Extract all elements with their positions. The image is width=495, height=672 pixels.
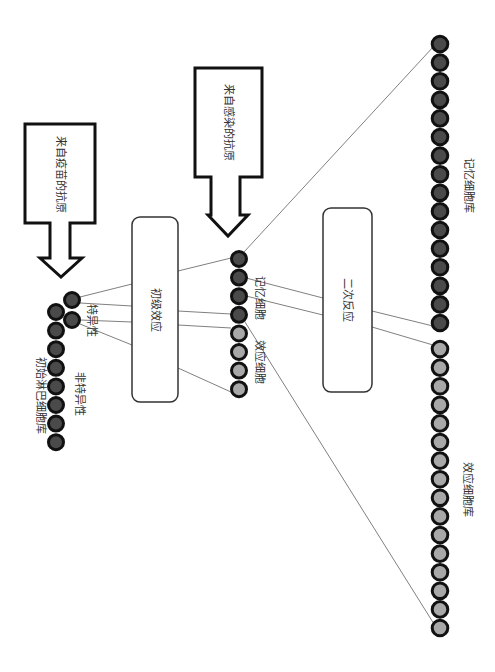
memory-cells-label: 记忆细胞	[253, 276, 265, 320]
cell	[432, 278, 448, 294]
effector-pool-label: 效应细胞库	[461, 462, 473, 517]
cell	[432, 36, 448, 52]
cell	[432, 55, 448, 71]
cell	[432, 92, 448, 108]
cell	[432, 453, 448, 469]
cell	[432, 583, 448, 599]
cell	[232, 326, 247, 341]
cell	[432, 111, 448, 127]
memory-pool-cells	[432, 36, 448, 331]
cell	[232, 252, 247, 267]
cell	[432, 73, 448, 89]
primary-response-label: 初级效应	[149, 288, 161, 332]
cell	[432, 602, 448, 618]
cell	[49, 360, 64, 375]
cell	[432, 564, 448, 580]
nonspecific-label: 非特异性	[73, 372, 85, 416]
memory-pool-label: 记忆细胞库	[462, 158, 474, 213]
cell	[232, 363, 247, 378]
effector-pool-cells	[432, 341, 448, 636]
cell	[432, 204, 448, 220]
cell	[432, 620, 448, 636]
cell	[49, 379, 64, 394]
cell	[432, 509, 448, 525]
cell	[232, 289, 247, 304]
naive-pool-label: 初始淋巴细胞库	[34, 357, 46, 434]
cell	[49, 435, 64, 450]
cell	[432, 166, 448, 182]
effector-cells-label: 效应细胞	[253, 340, 265, 384]
cell	[432, 241, 448, 257]
specific-cells	[65, 293, 80, 328]
cell	[49, 323, 64, 338]
cell	[65, 313, 80, 328]
cell	[432, 129, 448, 145]
cell	[432, 527, 448, 543]
vaccine-antigen-label: 来自疫苗的抗原	[54, 136, 66, 213]
cell	[432, 546, 448, 562]
middle-effector-cells	[232, 326, 247, 397]
secondary-response-label: 二次反应	[341, 278, 353, 322]
cell	[432, 222, 448, 238]
cell	[432, 341, 448, 357]
cell	[65, 293, 80, 308]
specific-label: 特异性	[85, 304, 97, 337]
cell	[49, 305, 64, 320]
cell	[432, 259, 448, 275]
cell	[432, 185, 448, 201]
cell	[432, 378, 448, 394]
cell	[432, 416, 448, 432]
cell	[432, 315, 448, 331]
cell	[432, 397, 448, 413]
cell	[232, 307, 247, 322]
cell	[49, 416, 64, 431]
infection-antigen-label: 来自感染的抗原	[222, 84, 234, 161]
cell	[432, 148, 448, 164]
cell	[432, 360, 448, 376]
cell	[232, 382, 247, 397]
cell	[49, 398, 64, 413]
cell	[232, 270, 247, 285]
cell	[432, 434, 448, 450]
cell	[432, 490, 448, 506]
cell	[232, 345, 247, 360]
immune-response-diagram	[0, 0, 495, 672]
cell	[49, 342, 64, 357]
cell	[432, 471, 448, 487]
cell	[432, 297, 448, 313]
naive-pool-cells	[49, 305, 64, 450]
middle-memory-cells	[232, 252, 247, 323]
